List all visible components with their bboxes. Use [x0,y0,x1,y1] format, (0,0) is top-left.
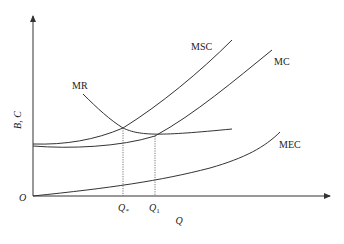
qstar-label: Q* [118,202,129,215]
mec-curve [33,132,280,196]
mec-label: MEC [279,139,301,150]
q1-label: Q1 [149,202,160,215]
mc-label: MC [274,56,290,67]
externality-diagram: O B, C Q MSC MC MR MEC Q* Q1 [0,0,344,244]
msc-curve [33,40,232,144]
x-axis-label: Q [175,215,183,226]
qstar-sub: * [125,207,129,215]
mr-label: MR [72,80,88,91]
y-axis-label: B, C [12,111,23,129]
origin-label: O [19,192,26,203]
mc-curve [33,50,272,147]
q1-sub: 1 [156,207,160,215]
msc-label: MSC [191,41,212,52]
